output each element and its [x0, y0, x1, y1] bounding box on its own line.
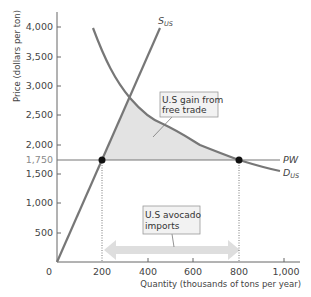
production-point [99, 157, 106, 164]
y-tick-1500: 1,500 [26, 168, 53, 179]
x-tick-0: 0 [46, 266, 52, 277]
x-tick-600: 600 [184, 266, 202, 277]
x-tick-200: 200 [93, 266, 111, 277]
y-axis-title: Price (dollars per ton) [12, 10, 22, 102]
demand-label: DUS [283, 167, 299, 180]
x-tick-800: 800 [230, 266, 248, 277]
consumption-point [236, 157, 243, 164]
supply-label: SUS [158, 15, 173, 28]
y-ticks [57, 27, 61, 233]
imports-leader-line [172, 234, 174, 247]
gain-annotation-line1: U.S gain from [162, 95, 223, 105]
y-tick-1750: 1,750 [26, 154, 53, 165]
imports-annotation-line2: imports [145, 221, 180, 231]
y-tick-500: 500 [35, 227, 53, 238]
x-axis-title: Quantity (thousands of tons per year) [140, 279, 301, 289]
y-tick-4000: 4,000 [26, 21, 53, 32]
pw-label: PW [283, 154, 299, 165]
x-tick-1000: 1,000 [272, 266, 299, 277]
gain-annotation-line2: free trade [162, 105, 207, 115]
free-trade-chart: 4,000 3,500 3,000 2,500 2,000 1,750 1,50… [0, 0, 311, 297]
imports-arrow [104, 240, 240, 260]
y-tick-2000: 2,000 [26, 139, 53, 150]
y-tick-2500: 2,500 [26, 109, 53, 120]
x-ticks [148, 258, 284, 262]
y-tick-1000: 1,000 [26, 197, 53, 208]
x-tick-400: 400 [139, 266, 157, 277]
imports-annotation-line1: U.S avocado [145, 210, 202, 220]
y-tick-3500: 3,500 [26, 51, 53, 62]
y-tick-3000: 3,000 [26, 80, 53, 91]
